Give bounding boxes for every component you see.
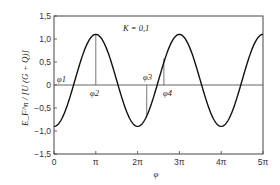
x-tick-label: π: [93, 157, 99, 167]
phi1-label: φ1: [57, 74, 66, 84]
y-tick-label: −1,0: [34, 126, 51, 136]
x-axis-ticks: 0π2π3π4π5π: [52, 151, 269, 167]
x-tick-label: 3π: [174, 157, 185, 167]
chart: 1,51,00,50−0,5−1,0−1,5 0π2π3π4π5π K = 0,…: [0, 0, 280, 185]
x-tick-label: 2π: [132, 157, 143, 167]
phi4-label: φ4: [163, 88, 173, 98]
phi3-label: φ3: [143, 72, 152, 82]
data-series-curve: [54, 34, 263, 126]
y-tick-label: −1,5: [34, 149, 51, 159]
y-axis-title: E_F^n / [U (G + Q)]: [20, 49, 30, 127]
y-tick-label: 1,0: [39, 34, 51, 44]
x-tick-label: 4π: [216, 157, 227, 167]
x-axis-title: φ: [154, 169, 159, 179]
k-annotation: K = 0,1: [122, 23, 149, 33]
y-tick-label: 1,5: [39, 11, 51, 21]
y-tick-label: −0,5: [34, 103, 51, 113]
phi2-label: φ2: [90, 88, 100, 98]
x-tick-label: 0: [52, 157, 57, 167]
y-tick-label: 0,5: [39, 57, 51, 67]
y-tick-label: 0: [46, 80, 51, 90]
x-tick-label: 5π: [258, 157, 269, 167]
